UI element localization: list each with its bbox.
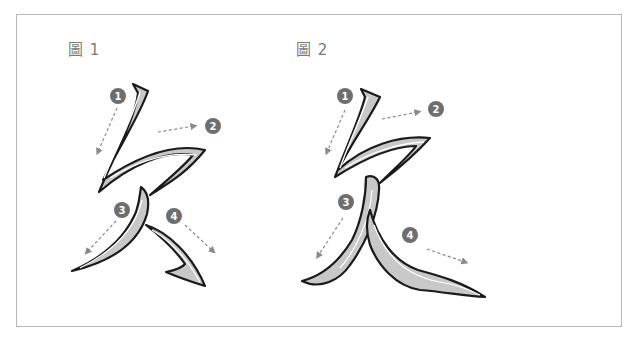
svg-text:3: 3 [119, 205, 126, 216]
stroke-order-diagram: 1 2 3 4 1 2 3 4 [0, 0, 633, 344]
figure-1-stroke-4 [146, 225, 205, 286]
stroke-order-badge-4: 4 [166, 208, 182, 224]
svg-text:4: 4 [171, 211, 178, 222]
stroke-order-badge-3: 3 [114, 202, 130, 218]
svg-text:4: 4 [407, 230, 414, 241]
stroke-order-badge-1: 1 [110, 88, 126, 104]
figure-2-stroke-4 [367, 210, 485, 297]
stroke-order-badge-2: 2 [428, 101, 444, 117]
svg-text:2: 2 [210, 121, 217, 132]
figure-2-character [302, 89, 485, 297]
figure-1-stroke-3 [72, 187, 148, 271]
stroke-order-badge-3: 3 [338, 194, 354, 210]
svg-text:1: 1 [115, 91, 122, 102]
figure-2-stroke-1-2 [335, 89, 430, 183]
svg-text:2: 2 [433, 104, 440, 115]
stroke-order-badge-2: 2 [205, 118, 221, 134]
svg-text:1: 1 [342, 91, 349, 102]
figure-2-stroke-guides [318, 110, 465, 262]
stroke-order-badge-1: 1 [337, 88, 353, 104]
stroke-order-badge-4: 4 [402, 227, 418, 243]
figure-1-character [72, 84, 205, 286]
svg-text:3: 3 [343, 197, 350, 208]
